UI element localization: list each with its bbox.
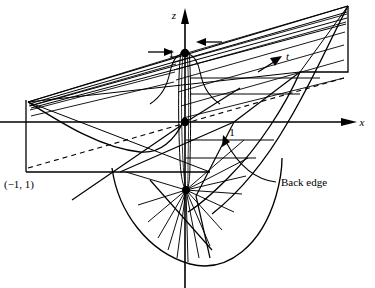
z-axis-label: z (171, 9, 177, 21)
origin-point-dot (181, 118, 189, 126)
corner-point-label: (−1, 1) (4, 178, 34, 191)
back-edge-label: Back edge (281, 176, 327, 188)
left-vertex-ruling-2 (28, 72, 300, 102)
right-convergence-arrowhead (196, 38, 206, 46)
x-axis-tick-label: 1 (229, 126, 235, 138)
ruling-line-6 (181, 60, 344, 106)
through-line-steep-2 (234, 72, 300, 122)
fan-ray-13 (186, 176, 246, 190)
z-axis-arrowhead (181, 8, 189, 24)
lower-node-dot (182, 186, 190, 194)
ruling-line-4 (176, 32, 345, 80)
through-line-diag-1 (150, 180, 212, 250)
ruling-line-left-3 (30, 72, 175, 110)
ruling-line-left-2 (29, 64, 176, 106)
x-axis-label: x (359, 116, 365, 128)
t-direction-arrowhead (270, 56, 282, 66)
front-parabola-left (28, 102, 184, 152)
fan-ray-3 (148, 190, 186, 222)
ruling-line-1 (170, 6, 348, 58)
figure-container: z 1 x 1 (−1, 1) t Back edge (0, 0, 375, 288)
x-axis-arrowhead (341, 118, 357, 126)
ruling-line-left-1 (28, 56, 178, 102)
fan-ray-5 (168, 190, 186, 250)
z-axis-tick-label: 1 (169, 47, 175, 59)
ruling-line-5 (178, 45, 344, 92)
through-line-diag-3 (196, 196, 210, 258)
through-line-right-lower (186, 88, 240, 122)
z-one-point-dot (181, 49, 189, 57)
through-line-left-lower (72, 122, 186, 200)
through-lines-group (72, 72, 320, 258)
through-line-steep-1 (120, 122, 234, 172)
surface-diagram: z 1 x 1 (−1, 1) t Back edge (0, 0, 375, 288)
